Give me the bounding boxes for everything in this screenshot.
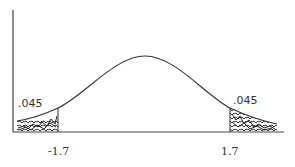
normal-distribution-chart: [0, 0, 295, 167]
x-tick-label-left: -1.7: [48, 146, 69, 157]
right-tail-area-label: .045: [233, 95, 258, 106]
x-tick-label-right: 1.7: [221, 146, 239, 157]
left-tail-shading: [17, 116, 58, 132]
left-tail-area-label: .045: [18, 98, 43, 109]
